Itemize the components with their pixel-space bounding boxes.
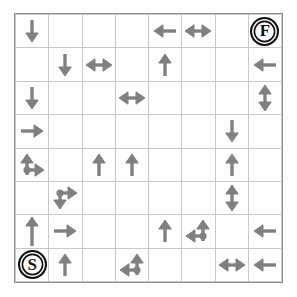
grid-cell-arrow-left-right[interactable] xyxy=(215,248,248,281)
arrow-left-icon xyxy=(252,218,278,244)
arrow-up-left-junction-icon xyxy=(184,217,212,245)
grid-cell-empty[interactable] xyxy=(149,148,182,181)
grid-cell-arrow-up-down[interactable] xyxy=(248,81,281,114)
grid-cell-empty[interactable] xyxy=(215,48,248,81)
grid-cell-empty[interactable] xyxy=(182,181,215,214)
grid-cell-arrow-up[interactable] xyxy=(115,148,148,181)
grid-row xyxy=(16,115,282,148)
grid-cell-arrow-down[interactable] xyxy=(215,115,248,148)
grid-cell-empty[interactable] xyxy=(182,148,215,181)
finish-marker-label: F xyxy=(260,22,270,39)
grid-cell-arrow-left[interactable] xyxy=(149,15,182,48)
grid-row: S xyxy=(16,248,282,281)
grid-cell-empty[interactable] xyxy=(248,115,281,148)
grid-cell-empty[interactable] xyxy=(182,115,215,148)
arrow-up-icon xyxy=(86,152,112,178)
grid-cell-arrow-right[interactable] xyxy=(16,115,49,148)
grid-cell-arrow-down-right-junction[interactable] xyxy=(49,181,82,214)
grid-cell-empty[interactable] xyxy=(49,81,82,114)
grid-cell-empty[interactable] xyxy=(115,15,148,48)
arrow-down-icon xyxy=(19,85,45,111)
arrow-up-icon xyxy=(152,218,178,244)
grid-cell-arrow-left[interactable] xyxy=(248,215,281,248)
arrow-left-right-icon xyxy=(84,52,114,78)
grid-cell-empty[interactable] xyxy=(149,81,182,114)
finish-marker: F xyxy=(250,17,279,46)
grid-cell-empty[interactable] xyxy=(182,48,215,81)
grid-cell-empty[interactable] xyxy=(16,181,49,214)
grid-cell-empty[interactable] xyxy=(115,48,148,81)
grid-cell-empty[interactable] xyxy=(182,81,215,114)
grid-cell-arrow-left[interactable] xyxy=(248,248,281,281)
grid-row xyxy=(16,81,282,114)
grid-cell-empty[interactable] xyxy=(149,115,182,148)
arrow-up-down-icon xyxy=(252,83,278,113)
grid-cell-arrow-left-right[interactable] xyxy=(182,15,215,48)
arrow-right-icon xyxy=(19,118,45,144)
grid-cell-arrow-up[interactable] xyxy=(82,148,115,181)
arrow-left-right-icon xyxy=(117,85,147,111)
grid-cell-empty[interactable] xyxy=(215,215,248,248)
start-marker-label: S xyxy=(27,256,36,273)
grid-cell-empty[interactable] xyxy=(49,148,82,181)
grid-cell-empty[interactable] xyxy=(149,248,182,281)
grid-cell-empty[interactable] xyxy=(215,81,248,114)
grid-cell-arrow-up-long[interactable] xyxy=(16,215,49,248)
grid-cell-empty[interactable] xyxy=(49,15,82,48)
grid-cell-arrow-up-down[interactable] xyxy=(215,181,248,214)
grid-cell-arrow-right[interactable] xyxy=(49,215,82,248)
grid-cell-arrow-left-right[interactable] xyxy=(82,48,115,81)
grid-cell-arrow-up-right-junction[interactable] xyxy=(16,148,49,181)
grid-cell-empty[interactable] xyxy=(149,181,182,214)
puzzle-grid[interactable]: FS xyxy=(14,13,283,283)
grid-cell-arrow-down[interactable] xyxy=(16,81,49,114)
grid-cell-arrow-up[interactable] xyxy=(49,248,82,281)
grid-cell-start-marker[interactable]: S xyxy=(16,248,49,281)
grid-cell-empty[interactable] xyxy=(182,248,215,281)
grid-cell-empty[interactable] xyxy=(248,148,281,181)
arrow-up-long-icon xyxy=(19,215,45,247)
grid-row: F xyxy=(16,15,282,48)
grid-cell-arrow-left[interactable] xyxy=(248,48,281,81)
arrow-left-right-icon xyxy=(217,252,247,278)
arrow-up-icon xyxy=(119,152,145,178)
arrow-up-icon xyxy=(152,52,178,78)
grid-cell-finish-marker[interactable]: F xyxy=(248,15,281,48)
grid-body: FS xyxy=(16,15,282,282)
arrow-left-icon xyxy=(252,252,278,278)
grid-cell-arrow-up-left-junction[interactable] xyxy=(115,248,148,281)
grid-cell-empty[interactable] xyxy=(115,115,148,148)
grid-cell-arrow-up-left-junction[interactable] xyxy=(182,215,215,248)
grid-table: FS xyxy=(15,14,282,282)
arrow-right-icon xyxy=(52,218,78,244)
grid-cell-empty[interactable] xyxy=(82,215,115,248)
grid-row xyxy=(16,215,282,248)
start-marker: S xyxy=(18,250,47,279)
grid-cell-empty[interactable] xyxy=(82,181,115,214)
grid-row xyxy=(16,48,282,81)
grid-cell-arrow-down[interactable] xyxy=(16,15,49,48)
grid-cell-empty[interactable] xyxy=(82,115,115,148)
grid-cell-empty[interactable] xyxy=(82,15,115,48)
grid-cell-empty[interactable] xyxy=(115,181,148,214)
grid-cell-empty[interactable] xyxy=(115,215,148,248)
arrow-down-icon xyxy=(52,52,78,78)
grid-cell-arrow-up[interactable] xyxy=(149,215,182,248)
grid-cell-arrow-left-right[interactable] xyxy=(115,81,148,114)
arrow-up-icon xyxy=(52,252,78,278)
grid-cell-empty[interactable] xyxy=(82,81,115,114)
grid-cell-empty[interactable] xyxy=(248,181,281,214)
grid-cell-arrow-down[interactable] xyxy=(49,48,82,81)
arrow-left-icon xyxy=(152,18,178,44)
arrow-up-left-junction-icon xyxy=(118,251,146,279)
grid-cell-empty[interactable] xyxy=(49,115,82,148)
grid-cell-empty[interactable] xyxy=(82,248,115,281)
arrow-up-right-junction-icon xyxy=(18,151,46,179)
grid-cell-arrow-up[interactable] xyxy=(149,48,182,81)
grid-cell-empty[interactable] xyxy=(16,48,49,81)
grid-row xyxy=(16,148,282,181)
arrow-left-right-icon xyxy=(183,18,213,44)
grid-cell-empty[interactable] xyxy=(215,15,248,48)
grid-cell-arrow-up[interactable] xyxy=(215,148,248,181)
arrow-left-icon xyxy=(252,52,278,78)
